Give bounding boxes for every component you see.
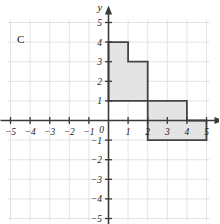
x-tick-label: −4 xyxy=(25,127,36,137)
y-tick-label: 1 xyxy=(97,96,102,106)
figure-letter-label: C xyxy=(17,33,24,45)
y-tick-label: 3 xyxy=(96,57,102,67)
y-axis-label: y xyxy=(97,2,103,13)
y-tick-label: 4 xyxy=(97,38,102,48)
y-tick-label: −4 xyxy=(91,194,102,204)
x-tick-label: 4 xyxy=(185,127,190,137)
x-tick-label: −3 xyxy=(44,127,55,137)
y-tick-label: 5 xyxy=(97,18,102,28)
x-tick-label: 2 xyxy=(145,127,150,137)
y-tick-label: −1 xyxy=(91,136,102,146)
origin-label: 0 xyxy=(99,125,104,135)
y-tick-label: −2 xyxy=(91,155,102,165)
shape-layer xyxy=(109,42,207,140)
y-axis-arrowhead xyxy=(105,6,112,15)
x-tick-label: −2 xyxy=(64,127,75,137)
y-tick-label: −5 xyxy=(91,214,102,224)
y-tick-label: −3 xyxy=(91,175,102,185)
x-tick-label: 5 xyxy=(204,127,209,137)
x-tick-label: 1 xyxy=(126,127,131,137)
plotted-shape xyxy=(109,42,207,140)
x-axis-label: x xyxy=(219,125,220,136)
coordinate-plane-figure: −5−4−3−2−112345−5−4−3−2−1123450 x y C xyxy=(0,0,219,224)
coordinate-plot: −5−4−3−2−112345−5−4−3−2−1123450 x y C xyxy=(0,0,219,224)
y-tick-label: 2 xyxy=(97,77,102,87)
x-tick-label: 3 xyxy=(164,127,170,137)
x-tick-label: −5 xyxy=(5,127,16,137)
x-axis-arrowhead xyxy=(215,117,220,124)
